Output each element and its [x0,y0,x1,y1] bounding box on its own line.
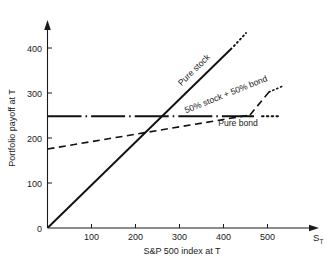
pure-stock-dotted-segment [234,33,246,46]
pure-stock-solid-segment [48,48,232,228]
x-axis-end-label: S [313,232,319,243]
series-pure-stock [48,33,246,228]
axes-group [44,20,319,231]
y-tick-label-400: 400 [27,44,42,54]
x-tick-label-500: 500 [260,232,275,242]
x-axis-tick-labels: 100 200 300 400 500 [84,232,275,242]
x-tick-label-100: 100 [84,232,99,242]
x-axis-title: S&P 500 index at T [143,246,221,256]
x-tick-label-200: 200 [128,232,143,242]
payoff-diagram-svg: 100 200 300 400 500 100 200 300 400 0 [0,0,331,265]
annotation-mixed-portfolio: 50% stock + 50% bond [183,73,269,115]
y-axis-arrowhead [44,20,51,30]
y-axis-title: Portfolio payoff at T [7,89,17,167]
x-tick-label-300: 300 [172,232,187,242]
x-axis-arrowhead [309,225,319,232]
y-tick-label-300: 300 [27,89,42,99]
annotation-pure-stock: Pure stock [176,52,212,88]
y-tick-label-200: 200 [27,134,42,144]
x-axis-end-label-group: S T [313,232,324,245]
chart-figure: 100 200 300 400 500 100 200 300 400 0 [0,0,331,265]
x-tick-label-400: 400 [216,232,231,242]
y-axis-tick-labels: 100 200 300 400 [27,44,42,189]
y-tick-label-100: 100 [27,179,42,189]
x-axis-end-sublabel: T [320,238,324,245]
mixed-dotted-segment [269,86,283,92]
mixed-dashed-segment-right [250,92,269,115]
x-axis-ticks [92,224,268,228]
origin-label: 0 [37,224,42,234]
annotation-pure-bond: Pure bond [218,118,258,128]
